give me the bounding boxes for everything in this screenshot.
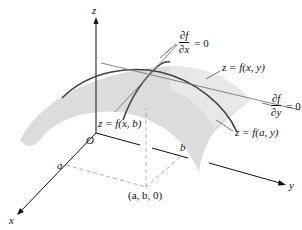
- point-label: (a, b, 0): [128, 190, 162, 201]
- leader-partial-y: [262, 103, 270, 105]
- partial-y-den: ∂y: [270, 106, 282, 118]
- y-axis-seg1: [96, 133, 140, 145]
- y-axis-label: y: [289, 180, 294, 191]
- partial-y-rhs: = 0: [286, 100, 300, 112]
- partial-x-rhs: = 0: [194, 37, 208, 49]
- partial-x-num: ∂f: [179, 30, 190, 43]
- z-arrow-icon: [94, 17, 99, 24]
- curve-xb-label: z = f(x, b): [98, 118, 141, 129]
- surface-label: z = f(x, y): [222, 62, 265, 73]
- curve-ay-label: z = f(a, y): [235, 127, 278, 138]
- y-axis-seg3: [209, 163, 280, 183]
- a-label: a: [57, 160, 63, 171]
- b-label: b: [180, 142, 186, 153]
- partial-y-num: ∂f: [271, 93, 282, 106]
- y-arrow-icon: [278, 180, 286, 186]
- z-axis-label: z: [92, 5, 96, 16]
- origin-label: O: [86, 135, 94, 146]
- leader-partial-x: [160, 44, 176, 58]
- x-axis-label: x: [9, 215, 14, 226]
- partial-x-den: ∂x: [178, 43, 190, 55]
- partial-y-label: ∂f ∂y = 0: [270, 93, 301, 118]
- partial-x-label: ∂f ∂x = 0: [178, 30, 209, 55]
- dashed-b: [146, 157, 180, 187]
- dashed-a: [66, 165, 146, 187]
